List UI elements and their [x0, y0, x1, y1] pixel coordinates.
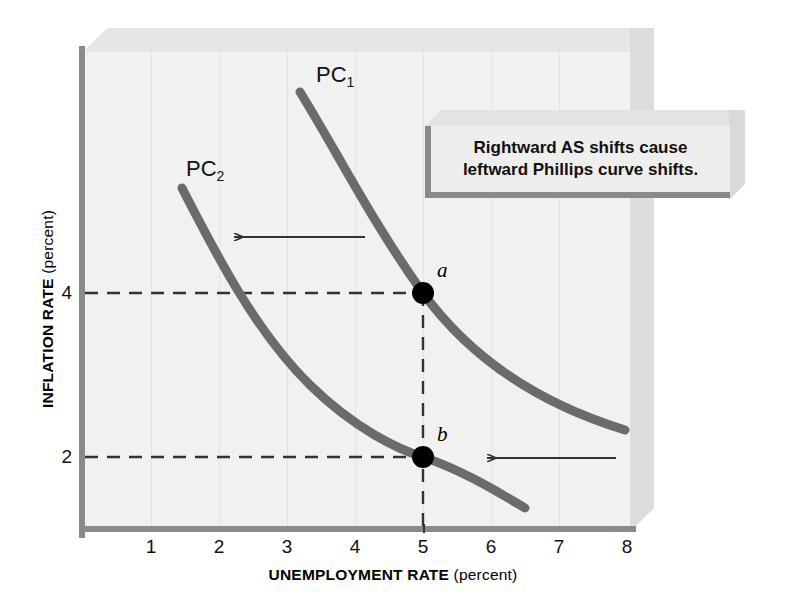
xtick-label-6: 6 [476, 536, 506, 558]
x-axis-title: UNEMPLOYMENT RATE (percent) [0, 566, 786, 584]
xtick-label-1: 1 [136, 536, 166, 558]
xtick-label-5: 5 [408, 536, 438, 558]
y-axis-title-unit: (percent) [39, 210, 56, 274]
x-axis-title-unit: (percent) [454, 566, 518, 583]
point-b-label: b [437, 422, 448, 447]
figure-canvas: 1 2 3 4 5 6 7 8 4 2 UNEMPLOYMENT RATE (p… [0, 0, 786, 616]
gridline-x5 [423, 52, 424, 532]
xtick-label-4: 4 [340, 536, 370, 558]
ytick-label-2: 2 [48, 446, 72, 468]
plot-3d-right-face [630, 28, 654, 532]
gridline-x2 [219, 52, 220, 532]
curve-label-pc1-subscript: 1 [347, 74, 355, 90]
callout-text: Rightward AS shifts cause leftward Phill… [431, 137, 730, 182]
xtick-label-2: 2 [204, 536, 234, 558]
y-axis-line [79, 46, 85, 538]
gridline-x4 [355, 52, 356, 532]
y-axis-title-bold: INFLATION RATE [39, 278, 56, 408]
callout-3d-right-face [729, 110, 745, 200]
plot-3d-top-face [83, 28, 630, 52]
x-axis-title-bold: UNEMPLOYMENT RATE [269, 566, 450, 583]
curve-label-pc2: PC2 [186, 156, 224, 184]
xtick-label-8: 8 [612, 536, 642, 558]
gridline-x1 [151, 52, 152, 532]
curve-label-pc2-subscript: 2 [217, 168, 225, 184]
x-axis-line [79, 526, 636, 532]
curve-label-pc1-text: PC [316, 62, 347, 87]
callout-box: Rightward AS shifts cause leftward Phill… [425, 126, 730, 198]
curve-label-pc2-text: PC [186, 156, 217, 181]
curve-label-pc1: PC1 [316, 62, 354, 90]
callout-3d-top-face [425, 110, 745, 126]
point-a-label: a [437, 258, 448, 283]
gridline-x3 [287, 52, 288, 532]
xtick-label-7: 7 [544, 536, 574, 558]
y-axis-title: INFLATION RATE (percent) [39, 179, 57, 439]
xtick-mark-5 [423, 524, 425, 533]
xtick-label-3: 3 [272, 536, 302, 558]
